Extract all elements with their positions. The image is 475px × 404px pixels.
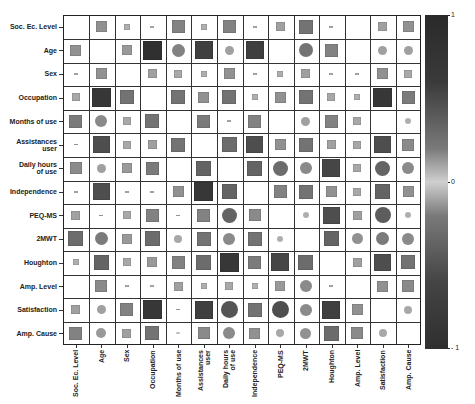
square-marker — [248, 232, 262, 246]
matrix-cell — [140, 15, 166, 39]
square-marker — [222, 137, 237, 152]
matrix-cell — [370, 15, 396, 39]
matrix-cell — [114, 251, 140, 275]
y-tick — [59, 192, 63, 193]
square-marker — [197, 232, 211, 246]
matrix-cell — [395, 180, 421, 204]
matrix-cell — [344, 251, 370, 275]
square-marker — [150, 191, 154, 193]
square-marker — [353, 164, 361, 172]
circle-marker — [174, 235, 182, 243]
square-marker — [123, 258, 131, 266]
circle-marker — [223, 233, 235, 245]
matrix-cell — [242, 133, 268, 157]
square-marker — [145, 114, 159, 128]
square-marker — [374, 254, 391, 271]
square-marker — [323, 207, 340, 224]
column-label: Assistancesuser — [197, 350, 211, 391]
circle-marker — [222, 208, 237, 223]
square-marker — [329, 285, 333, 287]
matrix-cell — [140, 251, 166, 275]
matrix-cell — [89, 133, 115, 157]
matrix-cell — [370, 62, 396, 86]
square-marker — [124, 24, 130, 30]
matrix-cell — [216, 204, 242, 228]
matrix-cell — [63, 133, 89, 157]
row-label: Months of use — [10, 118, 57, 125]
column-label: Amp. Cause — [405, 350, 412, 390]
square-marker — [69, 327, 82, 340]
x-tick — [101, 345, 102, 348]
square-marker — [299, 138, 313, 152]
square-marker — [71, 305, 80, 314]
square-marker — [246, 41, 264, 59]
matrix-cell — [395, 251, 421, 275]
square-marker — [74, 73, 78, 75]
circle-marker — [273, 161, 288, 176]
matrix-cell — [293, 62, 319, 86]
matrix-cell — [63, 109, 89, 133]
square-marker — [143, 41, 162, 60]
square-marker — [224, 68, 235, 79]
matrix-cell — [268, 251, 294, 275]
square-marker — [252, 283, 258, 289]
matrix-cell — [242, 227, 268, 251]
square-marker — [247, 161, 262, 176]
matrix-cell — [140, 156, 166, 180]
matrix-cell — [165, 251, 191, 275]
x-tick — [408, 345, 409, 348]
square-marker — [201, 71, 207, 77]
matrix-cell — [63, 156, 89, 180]
matrix-cell — [140, 298, 166, 322]
circle-marker — [404, 306, 412, 314]
y-tick — [59, 263, 63, 264]
y-tick — [59, 145, 63, 146]
square-marker — [377, 281, 388, 292]
circle-marker — [276, 329, 284, 337]
square-marker — [402, 139, 414, 151]
square-marker — [120, 303, 133, 316]
matrix-cell — [268, 133, 294, 157]
matrix-cell — [268, 274, 294, 298]
row-label: Daily hoursof use — [19, 161, 57, 175]
square-marker — [253, 26, 257, 28]
column-label: Occupation — [149, 350, 156, 389]
square-marker — [249, 328, 260, 339]
square-marker — [195, 301, 213, 319]
square-marker — [196, 161, 211, 176]
matrix-cell — [191, 180, 217, 204]
square-marker — [225, 282, 233, 290]
square-marker — [73, 259, 79, 265]
matrix-cell — [268, 156, 294, 180]
matrix-cell — [216, 227, 242, 251]
square-marker — [353, 211, 362, 220]
matrix-cell — [293, 204, 319, 228]
matrix-cell — [268, 15, 294, 39]
matrix-cell — [191, 204, 217, 228]
square-marker — [402, 91, 415, 104]
matrix-cell — [165, 204, 191, 228]
matrix-cell — [319, 109, 345, 133]
matrix-cell — [140, 109, 166, 133]
matrix-cell — [319, 86, 345, 110]
square-marker — [299, 20, 313, 34]
circle-marker — [300, 304, 312, 316]
square-marker — [150, 26, 154, 28]
matrix-cell — [89, 180, 115, 204]
square-marker — [252, 94, 258, 100]
matrix-cell — [319, 39, 345, 63]
colorbar-tick-mid: 0 — [451, 178, 455, 185]
square-marker — [122, 234, 132, 244]
matrix-cell — [89, 109, 115, 133]
matrix-cell — [293, 109, 319, 133]
matrix-cell — [114, 15, 140, 39]
square-marker — [275, 92, 286, 103]
y-tick — [59, 215, 63, 216]
x-tick — [178, 345, 179, 348]
matrix-cell — [63, 39, 89, 63]
square-marker — [248, 115, 261, 128]
circle-marker — [375, 161, 390, 176]
column-label: Soc. Ec. Level — [72, 350, 79, 397]
matrix-cell — [268, 321, 294, 345]
square-marker — [222, 184, 237, 199]
